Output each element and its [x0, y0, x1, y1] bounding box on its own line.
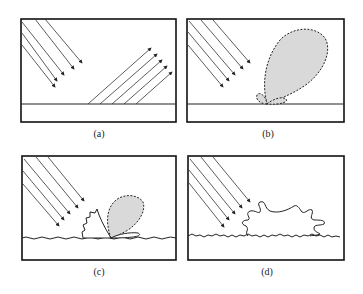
specular-lobe [265, 29, 328, 104]
diffuse-scatter-lobe [242, 202, 324, 236]
specular-lobe [108, 196, 144, 238]
incident-rays [23, 157, 84, 226]
caption-a: (a) [79, 128, 119, 139]
caption-c: (c) [79, 266, 119, 277]
specular-reflection-diagram [0, 0, 182, 145]
incident-rays [188, 20, 250, 87]
frame [22, 156, 176, 260]
panel-c: (c) [0, 140, 182, 294]
panel-d: (d) [180, 140, 363, 294]
diffuse-scatter-lobe [82, 209, 111, 238]
frame [188, 156, 344, 260]
caption-d: (d) [247, 266, 287, 277]
frame [21, 19, 176, 122]
incident-rays [22, 19, 82, 87]
panel-b: (b) [180, 0, 363, 145]
slightly-rough-reflection-diagram [180, 0, 363, 145]
caption-b: (b) [248, 128, 288, 139]
reflected-rays [88, 48, 172, 104]
incident-rays [189, 157, 250, 227]
panel-a: (a) [0, 0, 182, 145]
